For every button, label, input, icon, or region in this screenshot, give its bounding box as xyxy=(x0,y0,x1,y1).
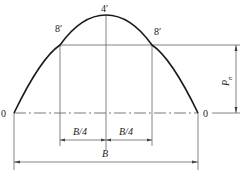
arrow-head xyxy=(106,139,111,142)
label-apex: 4′ xyxy=(101,3,108,14)
arrow-head xyxy=(235,45,238,51)
profile-diagram: 0 0 4′ 8′ 8′ B/4 B/4 B P n xyxy=(0,0,244,180)
label-height: P n xyxy=(220,76,234,87)
label-left-base: 0 xyxy=(1,108,6,119)
label-total-width: B xyxy=(102,148,108,159)
arrow-head xyxy=(192,161,198,164)
label-quarter-left: B/4 xyxy=(73,126,87,137)
label-right-base: 0 xyxy=(203,108,208,119)
arrow-head xyxy=(235,107,238,113)
label-right-quarter: 8′ xyxy=(154,26,161,37)
arrow-head xyxy=(101,139,106,142)
arrow-head xyxy=(147,139,152,142)
arrow-head xyxy=(14,161,20,164)
arrow-head xyxy=(60,139,65,142)
label-left-quarter: 8′ xyxy=(55,23,62,34)
label-height-subscript: n xyxy=(226,76,234,80)
label-quarter-right: B/4 xyxy=(119,126,133,137)
